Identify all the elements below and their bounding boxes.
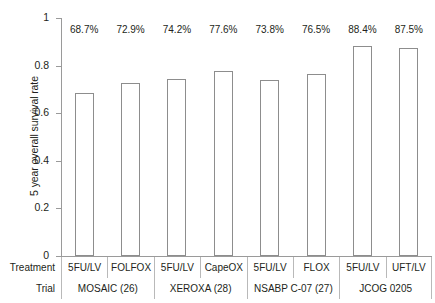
bar-2 xyxy=(121,83,140,257)
table-row-treatment: Treatment 5FU/LVFOLFOX5FU/LVCapeOX5FU/LV… xyxy=(0,257,432,278)
y-tick-label-1: 1 xyxy=(43,11,49,23)
bar-8 xyxy=(399,48,418,256)
bar-value-label-8: 87.5% xyxy=(386,24,432,35)
survival-rate-bar-chart: 5 year overall survival rate 00.20.40.60… xyxy=(0,0,435,303)
treatment-cell-8: UFT/LV xyxy=(386,257,432,278)
y-axis-line xyxy=(61,18,62,256)
bar-4 xyxy=(214,71,233,256)
y-tick-1: 1 xyxy=(56,18,61,19)
treatment-cell-5: 5FU/LV xyxy=(247,257,293,278)
trial-cell-4: JCOG 0205 xyxy=(339,278,432,299)
plot-area: 00.20.40.60.81 68.7%72.9%74.2%77.6%73.8%… xyxy=(61,18,432,256)
y-tick-label-0.8: 0.8 xyxy=(34,59,49,71)
treatment-cell-4: CapeOX xyxy=(200,257,246,278)
y-tick-label-0.6: 0.6 xyxy=(34,106,49,118)
y-axis-title: 5 year overall survival rate xyxy=(28,16,40,256)
treatment-cell-7: 5FU/LV xyxy=(339,257,385,278)
bar-3 xyxy=(167,79,186,256)
trial-cell-3: NSABP C-07 (27) xyxy=(247,278,340,299)
y-tick-0.4: 0.4 xyxy=(56,161,61,162)
bar-value-label-4: 77.6% xyxy=(200,24,246,35)
treatment-cell-3: 5FU/LV xyxy=(154,257,200,278)
y-tick-0.8: 0.8 xyxy=(56,66,61,67)
bar-5 xyxy=(260,80,279,256)
bar-value-label-3: 74.2% xyxy=(154,24,200,35)
bar-value-label-6: 76.5% xyxy=(293,24,339,35)
bar-value-label-7: 88.4% xyxy=(339,24,385,35)
bar-7 xyxy=(353,46,372,256)
category-table: Treatment 5FU/LVFOLFOX5FU/LVCapeOX5FU/LV… xyxy=(0,256,432,300)
treatment-cell-1: 5FU/LV xyxy=(61,257,107,278)
trial-cell-1: MOSAIC (26) xyxy=(61,278,154,299)
table-row-trial: Trial MOSAIC (26)XEROXA (28)NSABP C-07 (… xyxy=(0,278,432,299)
treatment-cell-6: FLOX xyxy=(293,257,339,278)
y-tick-0.6: 0.6 xyxy=(56,113,61,114)
bar-6 xyxy=(307,74,326,256)
treatment-cell-2: FOLFOX xyxy=(107,257,153,278)
y-tick-label-0.2: 0.2 xyxy=(34,201,49,213)
trial-cell-2: XEROXA (28) xyxy=(154,278,247,299)
bar-value-label-1: 68.7% xyxy=(61,24,107,35)
y-tick-label-0.4: 0.4 xyxy=(34,154,49,166)
row-header-trial: Trial xyxy=(0,278,58,299)
bar-value-label-5: 73.8% xyxy=(247,24,293,35)
bar-1 xyxy=(75,93,94,257)
row-header-treatment: Treatment xyxy=(0,257,58,278)
y-tick-0.2: 0.2 xyxy=(56,208,61,209)
bar-value-label-2: 72.9% xyxy=(107,24,153,35)
